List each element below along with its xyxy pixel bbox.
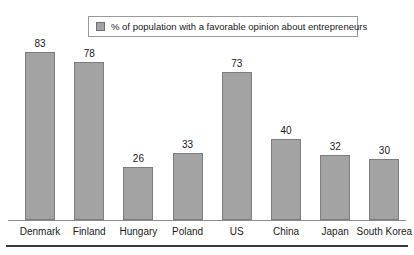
bar[interactable] xyxy=(320,155,350,220)
x-axis-tick-label: South Korea xyxy=(344,224,414,239)
bar-chart-figure: % of population with a favorable opinion… xyxy=(0,0,414,255)
bar-group: 32 xyxy=(320,44,350,220)
bottom-rule xyxy=(6,245,408,247)
bar-group: 30 xyxy=(369,44,399,220)
bar-group: 33 xyxy=(173,44,203,220)
legend-swatch-icon xyxy=(96,22,105,31)
bar[interactable] xyxy=(173,153,203,220)
bar-group: 83 xyxy=(25,44,55,220)
bar[interactable] xyxy=(74,62,104,220)
bar-value-label: 78 xyxy=(74,49,104,59)
bar-value-label: 83 xyxy=(25,39,55,49)
bar-group: 40 xyxy=(271,44,301,220)
bar-value-label: 73 xyxy=(222,59,252,69)
bar-value-label: 30 xyxy=(369,146,399,156)
bar-group: 73 xyxy=(222,44,252,220)
chart-legend: % of population with a favorable opinion… xyxy=(88,16,358,37)
bar-value-label: 40 xyxy=(271,126,301,136)
bar-value-label: 33 xyxy=(173,140,203,150)
bar[interactable] xyxy=(369,159,399,220)
x-axis-category-labels: DenmarkFinlandHungaryPolandUSChinaJapanS… xyxy=(0,224,414,240)
bar-value-label: 32 xyxy=(320,142,350,152)
bar-group: 26 xyxy=(123,44,153,220)
x-axis-line xyxy=(8,220,406,221)
legend-label: % of population with a favorable opinion… xyxy=(111,22,367,32)
bar[interactable] xyxy=(25,52,55,220)
plot-area: 8378263373403230 xyxy=(14,44,404,220)
bar[interactable] xyxy=(222,72,252,220)
bar[interactable] xyxy=(123,167,153,220)
bar-value-label: 26 xyxy=(123,154,153,164)
bar[interactable] xyxy=(271,139,301,220)
bar-group: 78 xyxy=(74,44,104,220)
